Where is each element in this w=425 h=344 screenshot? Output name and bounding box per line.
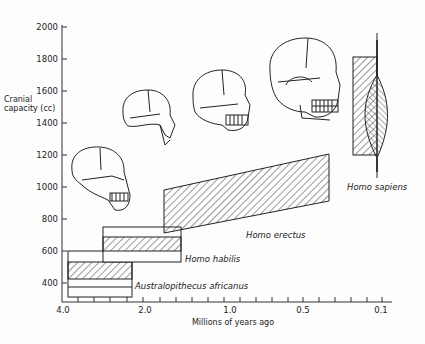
y-tick-1000: 1000 xyxy=(36,182,58,192)
range-homo-sapiens: Homo sapiens xyxy=(347,33,408,192)
skull-homo-sapiens-illustration xyxy=(270,38,340,120)
x-axis: 4.0 2.0 1.0 0.5 0.1 Millions of years ag… xyxy=(56,297,392,327)
label-australopithecus: Australopithecus africanus xyxy=(134,281,249,291)
y-tick-400: 400 xyxy=(42,278,58,288)
label-homo-erectus: Homo erectus xyxy=(246,230,306,240)
label-homo-habilis: Homo habilis xyxy=(185,254,241,264)
x-tick-2.0: 2.0 xyxy=(138,305,152,315)
y-ticks xyxy=(62,27,67,283)
x-axis-title: Millions of years ago xyxy=(192,318,274,327)
y-axis-title-line2: capacity (cc) xyxy=(4,104,55,113)
y-tick-1400: 1400 xyxy=(36,118,58,128)
y-tick-2000: 2000 xyxy=(36,22,58,32)
y-tick-600: 600 xyxy=(42,246,58,256)
skull-homo-erectus-illustration xyxy=(193,70,250,131)
x-tick-1.0: 1.0 xyxy=(223,305,237,315)
y-tick-800: 800 xyxy=(42,214,58,224)
y-axis-title-line1: Cranial xyxy=(4,95,32,104)
x-tick-0.1: 0.1 xyxy=(374,305,388,315)
y-tick-1800: 1800 xyxy=(36,54,58,64)
label-homo-sapiens: Homo sapiens xyxy=(347,182,408,192)
skull-australopithecus-illustration xyxy=(72,147,130,210)
y-axis: 2000 1800 1600 1400 1200 1000 800 600 40… xyxy=(4,22,67,302)
x-tick-4.0: 4.0 xyxy=(56,305,70,315)
range-homo-erectus: Homo erectus xyxy=(164,154,329,240)
x-ticks xyxy=(78,297,382,302)
y-tick-1600: 1600 xyxy=(36,86,58,96)
skull-homo-habilis-illustration xyxy=(123,90,175,145)
range-homo-habilis: Homo habilis xyxy=(103,227,241,264)
cranial-capacity-chart: 2000 1800 1600 1400 1200 1000 800 600 40… xyxy=(0,0,425,344)
x-tick-0.5: 0.5 xyxy=(296,305,310,315)
y-tick-1200: 1200 xyxy=(36,150,58,160)
